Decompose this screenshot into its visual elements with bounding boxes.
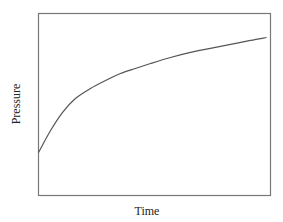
x-axis-label: Time [135, 204, 160, 218]
pressure-curve [39, 38, 267, 153]
y-axis-label: Pressure [9, 84, 23, 125]
plot-frame [39, 14, 271, 196]
pressure-time-chart: Pressure Time [0, 0, 283, 222]
